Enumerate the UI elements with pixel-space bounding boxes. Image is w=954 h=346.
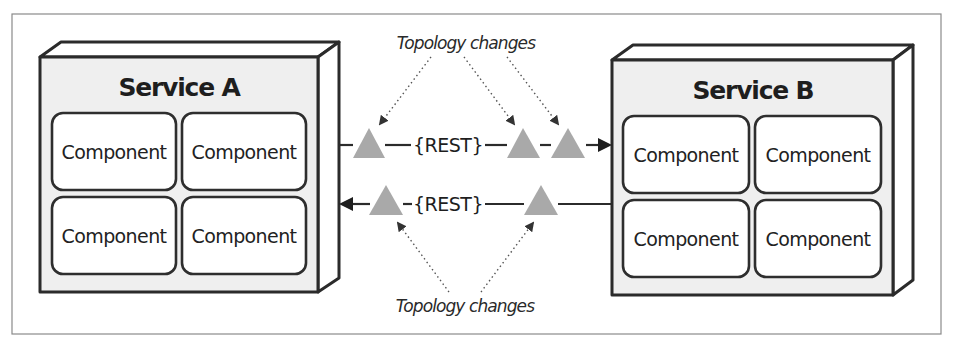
- service-a-component-2: Component: [182, 113, 306, 190]
- service-a-component-1: Component: [52, 113, 176, 190]
- rest-label-bottom: {REST}: [413, 193, 483, 215]
- component-label: Component: [192, 225, 297, 247]
- component-label: Component: [62, 141, 167, 163]
- diagram-canvas: Service A Component Component Component …: [0, 0, 954, 346]
- service-b-side-face: [893, 45, 913, 295]
- service-b-top-face: [612, 45, 913, 60]
- service-b-component-4: Component: [755, 200, 881, 277]
- component-label: Component: [192, 141, 297, 163]
- component-label: Component: [62, 225, 167, 247]
- service-b-component-1: Component: [623, 116, 749, 193]
- service-a-component-3: Component: [52, 197, 176, 274]
- component-label: Component: [766, 228, 871, 250]
- service-a-side-face: [318, 42, 339, 292]
- rest-label-top: {REST}: [413, 134, 483, 156]
- topology-changes-label-top: Topology changes: [397, 33, 536, 53]
- topology-changes-label-bottom: Topology changes: [396, 296, 535, 316]
- service-a-component-4: Component: [182, 197, 306, 274]
- component-label: Component: [766, 144, 871, 166]
- service-b-title: Service B: [693, 76, 814, 105]
- service-b-box: Service B Component Component Component …: [612, 45, 913, 295]
- service-a-top-face: [40, 42, 339, 57]
- service-a-title: Service A: [118, 73, 241, 102]
- component-label: Component: [634, 228, 739, 250]
- service-b-component-3: Component: [623, 200, 749, 277]
- service-a-box: Service A Component Component Component …: [40, 42, 339, 292]
- service-b-component-2: Component: [755, 116, 881, 193]
- component-label: Component: [634, 144, 739, 166]
